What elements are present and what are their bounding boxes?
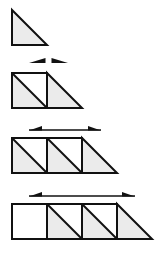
right-triangle (12, 10, 47, 45)
left-arrowhead-icon (29, 58, 46, 63)
diagram-canvas (0, 0, 160, 259)
right-triangle (82, 138, 117, 173)
right-arrowhead-icon (52, 58, 69, 63)
figure-2 (12, 58, 82, 108)
right-triangle (117, 204, 152, 239)
right-triangle (47, 73, 82, 108)
figure-4 (12, 192, 152, 239)
figure-3 (12, 126, 117, 173)
figure-1 (12, 10, 47, 45)
empty-square (12, 204, 47, 239)
